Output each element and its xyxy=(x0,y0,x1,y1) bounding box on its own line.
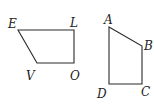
vertex-label-l: L xyxy=(69,16,78,30)
quadrilateral-evol xyxy=(18,30,74,63)
vertex-label-v: V xyxy=(26,69,36,83)
vertex-label-c: C xyxy=(141,85,150,99)
vertex-label-e: E xyxy=(7,17,17,31)
vertex-label-d: D xyxy=(96,87,107,101)
vertex-label-b: B xyxy=(143,39,153,53)
geometry-figure: E L O V A B C D xyxy=(0,0,154,104)
vertex-label-o: O xyxy=(70,69,80,83)
vertex-label-a: A xyxy=(103,13,113,27)
quadrilateral-abcd xyxy=(109,27,142,84)
